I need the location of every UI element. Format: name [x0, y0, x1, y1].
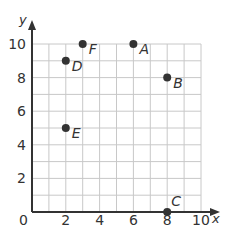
y-axis-arrow-icon: [28, 20, 36, 30]
point-d-label: D: [72, 58, 83, 74]
point-e-marker: [62, 124, 70, 132]
y-tick-label: 10: [8, 36, 26, 52]
coordinate-plane: yx 0246810246810 ABCDEF: [0, 0, 237, 243]
y-tick-label: 8: [17, 70, 26, 86]
x-tick-label: 0: [19, 212, 28, 228]
y-tick-label: 6: [17, 103, 26, 119]
point-a-marker: [129, 40, 137, 48]
point-c-label: C: [171, 193, 181, 209]
point-d-marker: [62, 57, 70, 65]
point-f-label: F: [89, 41, 98, 57]
x-tick-label: 2: [61, 212, 70, 228]
x-axis-label: x: [211, 211, 220, 226]
point-b-marker: [163, 74, 171, 82]
y-tick-label: 4: [17, 137, 26, 153]
point-e-label: E: [72, 125, 81, 141]
point-c-marker: [163, 208, 171, 216]
x-tick-label: 6: [129, 212, 138, 228]
x-tick-label: 4: [95, 212, 104, 228]
y-axis-label: y: [18, 12, 27, 27]
x-tick-label: 10: [192, 212, 210, 228]
y-tick-label: 2: [17, 170, 26, 186]
grid-lines: [32, 44, 201, 212]
point-b-label: B: [173, 75, 183, 91]
point-f-marker: [79, 40, 87, 48]
point-a-label: A: [138, 41, 149, 57]
